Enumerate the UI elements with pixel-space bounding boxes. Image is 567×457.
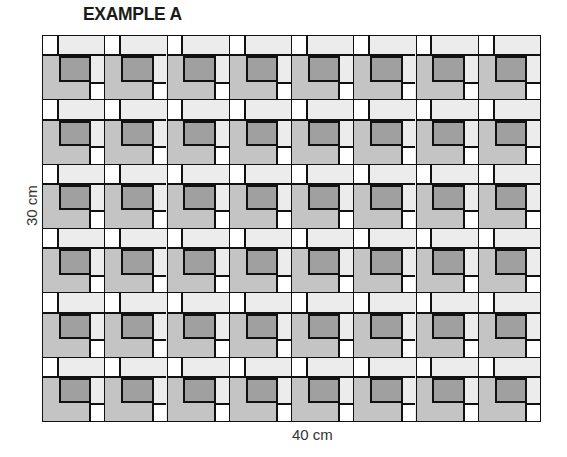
light-strip-right bbox=[278, 314, 291, 339]
pattern-block bbox=[417, 100, 479, 164]
dark-center-square bbox=[432, 249, 464, 274]
dark-center-square bbox=[59, 121, 91, 146]
dark-center-square bbox=[59, 314, 91, 339]
light-strip-top bbox=[59, 165, 104, 185]
white-corner-top-left bbox=[105, 100, 121, 120]
pattern-block bbox=[417, 293, 479, 357]
light-strip-top bbox=[370, 36, 415, 56]
dark-center-square bbox=[246, 378, 278, 403]
dark-center-square bbox=[495, 249, 527, 274]
light-strip-right bbox=[340, 314, 353, 339]
white-corner-top-left bbox=[168, 100, 184, 120]
light-strip-right bbox=[216, 249, 229, 274]
light-strip-right bbox=[465, 314, 478, 339]
pattern-block bbox=[292, 358, 354, 422]
light-strip-right bbox=[91, 185, 104, 210]
light-strip-top bbox=[308, 293, 353, 313]
dark-center-square bbox=[370, 314, 402, 339]
white-corner-bottom-right bbox=[527, 146, 540, 164]
light-strip-right bbox=[465, 56, 478, 81]
white-corner-bottom-right bbox=[278, 275, 291, 293]
dark-center-square bbox=[121, 185, 153, 210]
light-strip-right bbox=[465, 249, 478, 274]
dark-center-square bbox=[183, 249, 215, 274]
light-strip-right bbox=[403, 56, 416, 81]
white-corner-bottom-right bbox=[527, 210, 540, 228]
light-strip-top bbox=[246, 100, 291, 120]
light-strip-right bbox=[403, 249, 416, 274]
pattern-block bbox=[292, 293, 354, 357]
white-corner-top-left bbox=[479, 36, 495, 56]
white-corner-top-left bbox=[479, 165, 495, 185]
dark-center-square bbox=[370, 185, 402, 210]
pattern-block bbox=[230, 229, 292, 293]
light-strip-top bbox=[370, 165, 415, 185]
light-strip-top bbox=[432, 100, 477, 120]
dark-center-square bbox=[121, 121, 153, 146]
white-corner-bottom-right bbox=[154, 403, 167, 421]
white-corner-bottom-right bbox=[216, 146, 229, 164]
pattern-block bbox=[168, 293, 230, 357]
white-corner-bottom-right bbox=[340, 403, 353, 421]
white-corner-top-left bbox=[43, 36, 59, 56]
white-corner-bottom-right bbox=[154, 275, 167, 293]
pattern-block bbox=[292, 165, 354, 229]
dark-center-square bbox=[308, 56, 340, 81]
white-corner-bottom-right bbox=[465, 146, 478, 164]
light-strip-top bbox=[495, 100, 540, 120]
white-corner-bottom-right bbox=[403, 210, 416, 228]
dark-center-square bbox=[246, 121, 278, 146]
white-corner-top-left bbox=[417, 293, 433, 313]
light-strip-right bbox=[527, 185, 540, 210]
light-strip-top bbox=[246, 293, 291, 313]
light-strip-right bbox=[340, 378, 353, 403]
pattern-block bbox=[230, 358, 292, 422]
light-strip-right bbox=[278, 378, 291, 403]
light-strip-top bbox=[183, 358, 228, 378]
light-strip-right bbox=[403, 121, 416, 146]
light-strip-top bbox=[183, 229, 228, 249]
pattern-block bbox=[105, 358, 167, 422]
light-strip-right bbox=[340, 56, 353, 81]
light-strip-right bbox=[527, 121, 540, 146]
pattern-block bbox=[479, 358, 541, 422]
dark-center-square bbox=[246, 185, 278, 210]
dark-center-square bbox=[183, 314, 215, 339]
white-corner-top-left bbox=[292, 165, 308, 185]
white-corner-bottom-right bbox=[216, 275, 229, 293]
light-strip-right bbox=[154, 314, 167, 339]
white-corner-top-left bbox=[417, 358, 433, 378]
white-corner-bottom-right bbox=[91, 275, 104, 293]
light-strip-top bbox=[495, 358, 540, 378]
dark-center-square bbox=[308, 185, 340, 210]
dark-center-square bbox=[370, 249, 402, 274]
dark-center-square bbox=[121, 249, 153, 274]
light-strip-right bbox=[403, 378, 416, 403]
white-corner-top-left bbox=[43, 358, 59, 378]
light-strip-top bbox=[432, 358, 477, 378]
light-strip-right bbox=[340, 185, 353, 210]
light-strip-top bbox=[246, 229, 291, 249]
dark-center-square bbox=[59, 249, 91, 274]
white-corner-top-left bbox=[168, 358, 184, 378]
pattern-block bbox=[479, 293, 541, 357]
pattern-block bbox=[168, 229, 230, 293]
light-strip-top bbox=[121, 36, 166, 56]
white-corner-bottom-right bbox=[278, 82, 291, 100]
dark-center-square bbox=[495, 121, 527, 146]
white-corner-bottom-right bbox=[465, 210, 478, 228]
white-corner-top-left bbox=[417, 36, 433, 56]
dark-center-square bbox=[432, 314, 464, 339]
dark-center-square bbox=[370, 56, 402, 81]
white-corner-bottom-right bbox=[91, 210, 104, 228]
dark-center-square bbox=[432, 378, 464, 403]
light-strip-top bbox=[121, 293, 166, 313]
light-strip-top bbox=[121, 358, 166, 378]
dark-center-square bbox=[370, 378, 402, 403]
pattern-block bbox=[168, 36, 230, 100]
white-corner-bottom-right bbox=[91, 146, 104, 164]
pattern-block bbox=[230, 100, 292, 164]
light-strip-right bbox=[278, 249, 291, 274]
light-strip-top bbox=[246, 165, 291, 185]
light-strip-right bbox=[465, 121, 478, 146]
